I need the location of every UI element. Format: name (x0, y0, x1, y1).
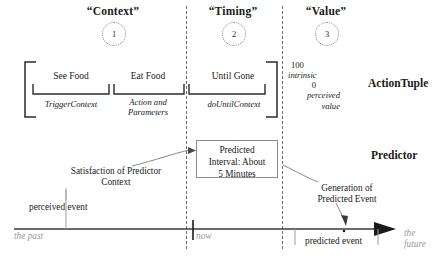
slot-label-see-food: See Food (33, 71, 109, 81)
timeline-event-label-predicted-event: predicted event (305, 236, 362, 246)
value-scale-min-label-line1: perceived (288, 90, 344, 100)
slot-label-eat-food: Eat Food (113, 71, 183, 81)
column-heading-timing: “Timing” (192, 5, 274, 17)
annotation-line2: Context (40, 177, 192, 188)
value-scale-min: 0 (288, 80, 344, 90)
predicted-interval-box: Predicted Interval: About 5 Minutes (196, 140, 278, 178)
timeline-label-past: the past (14, 231, 43, 242)
timeline-label-future-line2: future (404, 239, 426, 250)
timeline-label-now: now (196, 231, 212, 242)
slot-underline-trigger-context (33, 84, 109, 94)
slot-underline-do-until-context (189, 84, 265, 94)
value-scale-max: 100 (288, 60, 344, 70)
predicted-interval-line2: Interval: About (197, 156, 277, 168)
action-tuple-predictor-diagram: “Context” 1 “Timing” 2 “Value” 3 ActionT… (0, 0, 445, 263)
column-divider-timing-value (282, 6, 283, 249)
annotation-line2: Predicted Event (295, 194, 399, 205)
annotation-generation-of-predicted-event: Generation of Predicted Event (295, 183, 399, 206)
slot-sublabel-line2: Parameters (113, 108, 183, 118)
annotation-line1: Satisfaction of Predictor (40, 166, 192, 177)
column-badge-context: 1 (102, 22, 126, 46)
timeline-event-label-perceived-event: perceived event (29, 202, 88, 212)
leader-satisfaction-to-interval-box (132, 150, 189, 166)
predicted-event-dot (343, 230, 346, 233)
row-name-predictor: Predictor (371, 149, 417, 161)
leader-generation-arrowhead (341, 215, 348, 226)
column-heading-context: “Context” (58, 5, 168, 17)
row-name-action-tuple: ActionTuple (368, 77, 428, 89)
slot-sublabel-trigger-context: TriggerContext (27, 100, 115, 110)
column-divider-context-timing (186, 6, 187, 249)
value-scale: 100 intrinsic 0 perceived value (288, 60, 344, 111)
annotation-line1: Generation of (295, 183, 399, 194)
column-badge-timing: 2 (222, 22, 246, 46)
value-scale-max-label: intrinsic (288, 70, 344, 80)
slot-underline-action-and-parameters (114, 84, 184, 94)
leader-satisfaction-arrowhead (188, 147, 196, 154)
predicted-interval-line3: 5 Minutes (197, 168, 277, 180)
column-heading-value: “Value” (288, 5, 364, 17)
slot-sublabel-do-until-context: doUntilContext (191, 100, 277, 110)
timeline-label-future-line1: the (404, 228, 426, 239)
slot-sublabel-action-and-parameters: Action and Parameters (113, 98, 183, 117)
leader-generation-upper (283, 165, 318, 182)
timeline-arrowhead (374, 222, 396, 236)
column-badge-value: 3 (315, 22, 339, 46)
annotation-satisfaction-of-predictor-context: Satisfaction of Predictor Context (40, 166, 192, 189)
value-scale-min-label-line2: value (288, 101, 344, 111)
timeline-label-future: the future (404, 228, 426, 249)
slot-label-until-gone: Until Gone (195, 71, 271, 81)
predicted-interval-line1: Predicted (197, 144, 277, 156)
